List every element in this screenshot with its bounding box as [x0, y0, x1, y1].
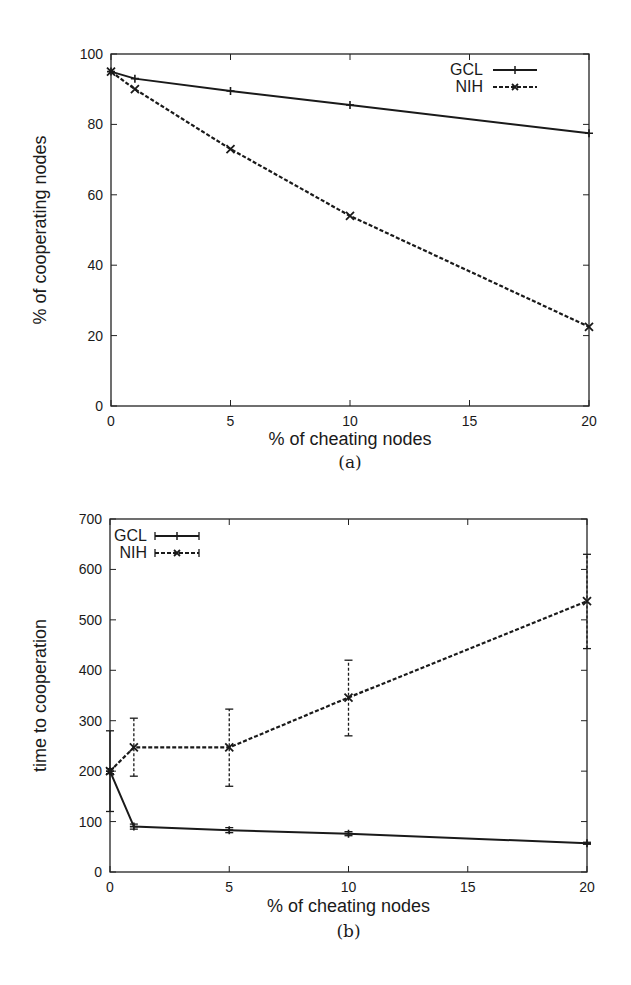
y-axis-label: time to cooperation — [30, 619, 50, 772]
series-line — [110, 601, 587, 771]
x-tick-label: 20 — [581, 413, 597, 429]
y-tick-label: 80 — [87, 116, 103, 132]
plus-marker-icon — [345, 830, 353, 838]
x-tick-label: 5 — [227, 413, 235, 429]
cross-marker-icon — [131, 85, 139, 93]
y-tick-label: 40 — [87, 257, 103, 273]
y-tick-label: 60 — [87, 187, 103, 203]
y-tick-label: 700 — [79, 511, 103, 527]
series-line — [111, 72, 589, 327]
y-tick-label: 100 — [79, 814, 103, 830]
legend: GCLNIH — [450, 61, 537, 95]
x-tick-label: 5 — [225, 879, 233, 895]
panel-caption: (a) — [338, 452, 361, 472]
series-gcl — [107, 68, 593, 138]
y-tick-label: 0 — [94, 864, 102, 880]
plus-marker-icon — [346, 101, 354, 109]
series-nih — [106, 554, 591, 786]
chart-a-cooperating-nodes: 05101520020406080100% of cheating nodes%… — [30, 46, 597, 472]
y-tick-label: 100 — [80, 46, 104, 62]
x-tick-label: 10 — [342, 413, 358, 429]
cross-marker-icon — [346, 212, 354, 220]
x-axis-label: % of cheating nodes — [268, 429, 431, 449]
legend-label-nih: NIH — [455, 78, 483, 95]
figure: 05101520020406080100% of cheating nodes%… — [0, 0, 631, 985]
y-tick-label: 200 — [79, 763, 103, 779]
y-tick-label: 0 — [95, 398, 103, 414]
x-tick-label: 15 — [460, 879, 476, 895]
plus-marker-icon — [583, 839, 591, 847]
y-tick-label: 20 — [87, 328, 103, 344]
legend-label-gcl: GCL — [114, 527, 147, 544]
y-tick-label: 600 — [79, 561, 103, 577]
x-tick-label: 10 — [341, 879, 357, 895]
y-tick-label: 400 — [79, 662, 103, 678]
y-tick-label: 500 — [79, 612, 103, 628]
x-tick-label: 0 — [106, 879, 114, 895]
plus-marker-icon — [131, 75, 139, 83]
y-axis-label: % of cooperating nodes — [30, 135, 50, 324]
chart-b-time-to-cooperation: 051015200100200300400500600700% of cheat… — [30, 511, 595, 941]
x-axis-label: % of cheating nodes — [267, 896, 430, 916]
x-tick-label: 0 — [107, 413, 115, 429]
legend-label-nih: NIH — [119, 544, 147, 561]
x-tick-label: 20 — [579, 879, 595, 895]
y-tick-label: 300 — [79, 713, 103, 729]
plus-marker-icon — [585, 129, 593, 137]
plus-marker-icon — [227, 87, 235, 95]
legend: GCLNIH — [114, 527, 199, 561]
panel-caption: (b) — [336, 921, 360, 941]
legend-label-gcl: GCL — [450, 61, 483, 78]
cross-marker-icon — [227, 145, 235, 153]
x-tick-label: 15 — [462, 413, 478, 429]
